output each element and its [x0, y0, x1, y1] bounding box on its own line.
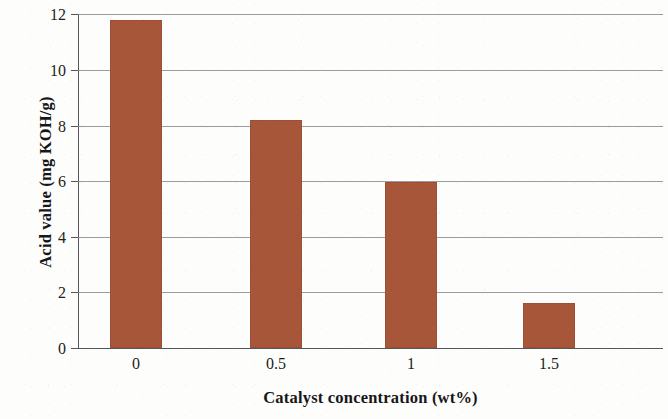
x-tick-label-1.5: 1.5	[504, 355, 594, 373]
y-tick-mark-12	[71, 14, 78, 15]
y-tick-label-6: 6	[26, 173, 66, 191]
gridline-10	[78, 70, 663, 71]
y-tick-label-2: 2	[26, 284, 66, 302]
gridline-4	[78, 237, 663, 238]
bar-0	[110, 20, 162, 348]
x-tick-label-1: 1	[366, 355, 456, 373]
gridline-0-baseline	[78, 348, 663, 349]
y-tick-mark-0	[71, 348, 78, 349]
gridline-8	[78, 126, 663, 127]
bar-chart-figure: Acid value (mg KOH/g) 12 10 8 6 4 2 0 0 …	[0, 0, 668, 419]
y-axis-tick-labels: 12 10 8 6 4 2 0	[22, 0, 66, 419]
gridline-2	[78, 292, 663, 293]
y-tick-mark-4	[71, 237, 78, 238]
x-tick-label-0.5: 0.5	[231, 355, 321, 373]
y-tick-label-4: 4	[26, 229, 66, 247]
gridline-6	[78, 181, 663, 182]
y-tick-label-0: 0	[26, 340, 66, 358]
x-axis-title: Catalyst concentration (wt%)	[78, 388, 663, 408]
y-tick-mark-8	[71, 126, 78, 127]
y-tick-mark-2	[71, 292, 78, 293]
y-tick-mark-10	[71, 70, 78, 71]
plot-area	[78, 14, 663, 348]
x-tick-label-0: 0	[91, 355, 181, 373]
bar-1	[385, 182, 437, 348]
gridline-12	[78, 14, 663, 15]
y-tick-label-8: 8	[26, 118, 66, 136]
y-tick-mark-6	[71, 181, 78, 182]
bar-0.5	[250, 120, 302, 348]
y-tick-label-12: 12	[26, 6, 66, 24]
x-axis-tick-labels: 0 0.5 1 1.5	[78, 355, 663, 381]
y-tick-label-10: 10	[26, 62, 66, 80]
bar-1.5	[523, 303, 575, 348]
